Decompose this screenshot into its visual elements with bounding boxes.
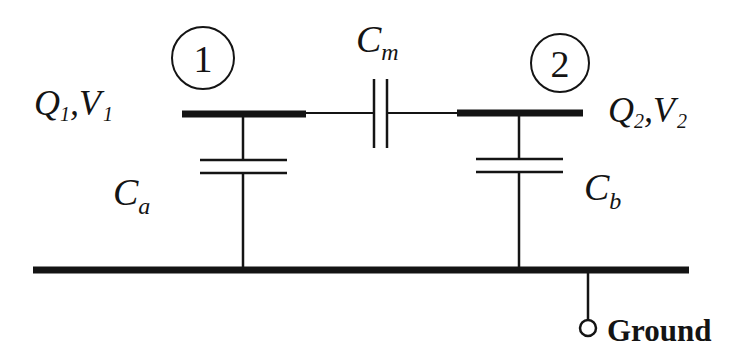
node-1-charge-voltage-label: Q1,V1	[34, 83, 113, 125]
q2-symbol: Q	[608, 90, 634, 130]
cb-symbol: C	[584, 166, 610, 208]
q1-symbol: Q	[34, 83, 60, 123]
ground-label: Ground	[607, 313, 712, 348]
cb-label: Cb	[584, 166, 621, 214]
q2-subscript: 2	[634, 110, 644, 132]
node-2-number: 2	[551, 43, 570, 85]
v2-subscript: 2	[677, 110, 687, 132]
circuit-diagram: 1 2	[0, 0, 749, 362]
cm-symbol: C	[356, 18, 382, 60]
v2-symbol: V	[653, 90, 679, 130]
node-1-marker: 1	[172, 27, 234, 89]
cb-subscript: b	[609, 188, 621, 214]
capacitor-cb	[476, 113, 563, 270]
cm-subscript: m	[381, 39, 398, 65]
node-1-number: 1	[194, 38, 213, 80]
capacitor-cm	[306, 79, 457, 148]
v1-symbol: V	[79, 83, 105, 123]
capacitor-ca	[200, 114, 287, 270]
ca-subscript: a	[138, 193, 150, 219]
q1-subscript: 1	[60, 103, 70, 125]
cm-label: Cm	[356, 18, 399, 65]
node-2-charge-voltage-label: Q2,V2	[608, 90, 687, 132]
ground-terminal-icon	[580, 320, 596, 336]
ca-label: Ca	[113, 171, 150, 219]
q1-v1-separator: ,	[70, 83, 79, 123]
q2-v2-separator: ,	[644, 90, 653, 130]
v1-subscript: 1	[103, 103, 113, 125]
circuit-svg: 1 2	[0, 0, 749, 362]
ca-symbol: C	[113, 171, 139, 213]
node-2-marker: 2	[531, 34, 589, 92]
ground-terminal	[580, 270, 596, 336]
